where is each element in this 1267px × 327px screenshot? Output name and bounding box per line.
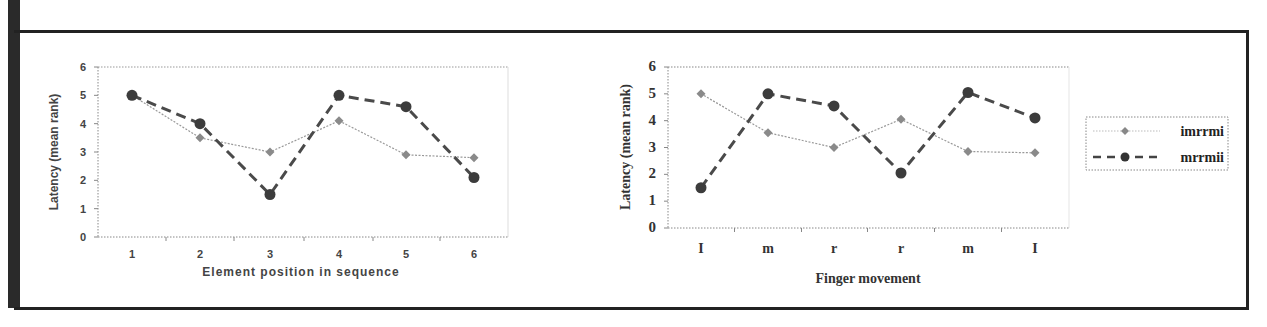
y-tick-label: 1 — [649, 192, 657, 208]
series-group — [696, 87, 1041, 193]
legend-label: mrrmii — [1180, 150, 1224, 165]
series-group — [127, 90, 480, 200]
diamond-marker-icon — [470, 153, 479, 162]
diamond-marker-icon — [764, 128, 773, 137]
circle-marker-icon — [469, 172, 480, 183]
y-tick-label: 3 — [80, 146, 86, 158]
y-tick-label: 6 — [80, 61, 86, 73]
x-ticks: ImrrmI — [698, 228, 1037, 256]
y-tick-label: 6 — [649, 58, 657, 74]
diamond-marker-icon — [402, 150, 411, 159]
y-tick-label: 4 — [649, 112, 657, 128]
y-tick-label: 4 — [80, 118, 87, 130]
y-tick-label: 2 — [80, 174, 86, 186]
y-tick-label: 5 — [649, 85, 657, 101]
legend-label: imrrmi — [1180, 124, 1224, 139]
circle-marker-icon — [195, 118, 206, 129]
left-chart: 0123456 123456 Latency (mean rank) Eleme… — [47, 61, 508, 279]
right-chart: 0123456 ImrrmI Latency (mean rank) Finge… — [618, 58, 1069, 286]
x-tick-label: 6 — [471, 248, 477, 260]
diamond-marker-icon — [266, 148, 275, 157]
diamond-marker-icon — [830, 143, 839, 152]
circle-marker-icon — [763, 88, 774, 99]
x-tick-label: 2 — [197, 248, 203, 260]
circle-marker-icon — [401, 101, 412, 112]
y-ticks: 0123456 — [649, 58, 669, 235]
x-tick-label: I — [1032, 241, 1037, 256]
circle-marker-icon — [1030, 112, 1041, 123]
x-tick-label: m — [962, 241, 974, 256]
circle-marker-icon — [696, 182, 707, 193]
diamond-marker-icon — [964, 147, 973, 156]
x-axis-label: Finger movement — [815, 271, 920, 286]
x-tick-label: 5 — [403, 248, 409, 260]
x-tick-label: 4 — [336, 248, 343, 260]
y-tick-label: 5 — [80, 89, 86, 101]
diamond-marker-icon — [335, 116, 344, 125]
series-line — [132, 95, 474, 194]
x-tick-label: 1 — [129, 248, 135, 260]
y-axis-label: Latency (mean rank) — [47, 94, 61, 211]
series-line — [701, 92, 1035, 187]
diamond-marker-icon — [897, 115, 906, 124]
x-tick-label: I — [698, 241, 703, 256]
y-tick-label: 0 — [649, 219, 657, 235]
x-tick-label: r — [831, 241, 837, 256]
x-tick-label: 3 — [267, 248, 273, 260]
y-tick-label: 1 — [80, 203, 86, 215]
diamond-marker-icon — [196, 133, 205, 142]
legend: imrrmi mrrmii — [1086, 117, 1228, 170]
diamond-marker-icon — [1031, 148, 1040, 157]
circle-marker-icon — [265, 189, 276, 200]
circle-marker-icon — [127, 90, 138, 101]
circle-marker-icon — [896, 167, 907, 178]
y-tick-label: 3 — [649, 139, 657, 155]
figure-svg: 0123456 123456 Latency (mean rank) Eleme… — [0, 0, 1267, 327]
y-tick-label: 2 — [649, 165, 657, 181]
circle-marker-icon — [829, 100, 840, 111]
x-tick-label: m — [762, 241, 774, 256]
x-ticks: 123456 — [129, 237, 477, 260]
y-ticks: 0123456 — [80, 61, 98, 243]
x-tick-label: r — [898, 241, 904, 256]
circle-marker-icon — [1121, 153, 1130, 162]
series-line — [701, 94, 1035, 153]
y-axis-label: Latency (mean rank) — [618, 84, 634, 210]
series-mrrmii — [696, 87, 1041, 193]
x-axis-label: Element position in sequence — [202, 265, 399, 279]
series-mrrmii — [127, 90, 480, 200]
y-tick-label: 0 — [80, 231, 86, 243]
circle-marker-icon — [963, 87, 974, 98]
circle-marker-icon — [334, 90, 345, 101]
diamond-marker-icon — [697, 89, 706, 98]
